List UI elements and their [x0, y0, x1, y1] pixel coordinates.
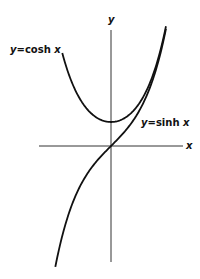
cosh-label-eq: =: [17, 44, 25, 55]
y-axis-label: y: [108, 15, 115, 25]
cosh-label-var: x: [54, 44, 60, 55]
cosh-label: y=cosh x: [10, 45, 61, 55]
sinh-label-eq: =: [148, 117, 156, 128]
hyperbolic-functions-plot: [0, 0, 200, 279]
sinh-label-var: x: [183, 117, 189, 128]
cosh-curve: [62, 26, 166, 122]
cosh-label-func: cosh: [25, 44, 51, 55]
sinh-label-func: sinh: [156, 117, 180, 128]
sinh-label: y=sinh x: [141, 118, 189, 128]
x-axis-label: x: [186, 141, 192, 151]
